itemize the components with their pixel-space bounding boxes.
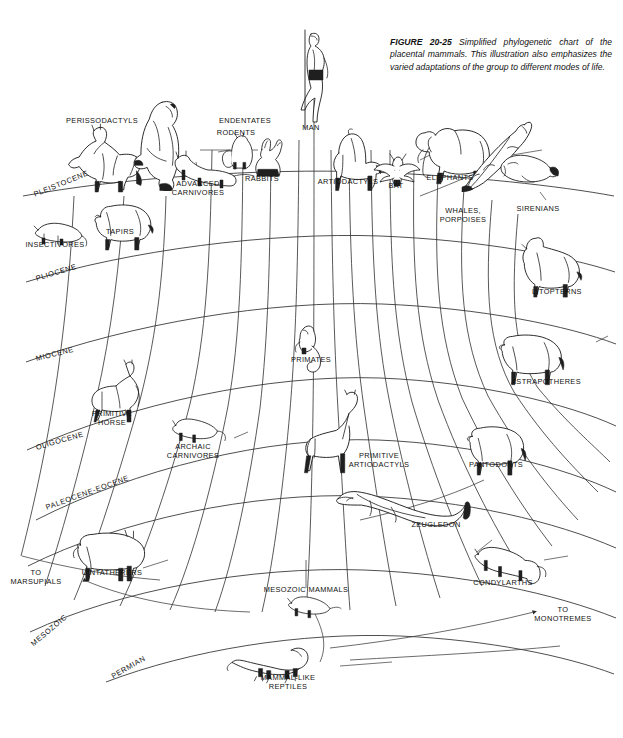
animal-archaic-carnivore bbox=[173, 419, 226, 443]
taxon-label: CONDYLARTHS bbox=[473, 579, 533, 588]
taxon-label: UINTATHERERS bbox=[82, 569, 143, 578]
taxon-label: ADVANCED CARNIVORES bbox=[172, 180, 224, 197]
taxon-label: PANTODONTS bbox=[469, 461, 523, 470]
chart-canvas: .gl { fill:none; stroke:#2f2f2f; stroke-… bbox=[0, 0, 623, 738]
taxon-label: MAMMAL-LIKE REPTILES bbox=[261, 674, 316, 691]
figure-caption-number: FIGURE 20-25 bbox=[390, 37, 452, 47]
taxon-label: INSECTIVORES bbox=[25, 241, 84, 250]
taxon-label: TO MONOTREMES bbox=[534, 606, 591, 623]
taxon-label: MAN bbox=[302, 124, 319, 133]
taxon-label: LITOPTERNS bbox=[532, 288, 582, 297]
taxon-label: ZEUGLEDON bbox=[411, 521, 460, 530]
animal-rabbit bbox=[256, 139, 282, 176]
taxon-label: ARCHAIC CARNIVORES bbox=[167, 443, 219, 460]
taxon-label: SIRENIANS bbox=[517, 205, 560, 214]
taxon-label: ASTRAPOTHERES bbox=[511, 378, 581, 387]
taxon-label: ELEPHANTS bbox=[426, 174, 473, 183]
animal-man bbox=[301, 30, 328, 128]
animal-mesozoic-mammal bbox=[288, 597, 341, 618]
taxon-label: ENDENTATES bbox=[219, 117, 271, 126]
taxon-label: TAPIRS bbox=[106, 228, 134, 237]
figure-caption: FIGURE 20-25 Simplified phylogenetic cha… bbox=[390, 36, 612, 73]
animal-sirenian bbox=[501, 155, 559, 182]
taxon-label: MESOZOIC MAMMALS bbox=[264, 586, 348, 595]
taxon-label: BAT bbox=[389, 182, 404, 191]
taxon-label: PRIMITIVE ARTIODACTYLS bbox=[349, 452, 410, 469]
animal-primate bbox=[295, 326, 320, 372]
taxon-label: PRIMATES bbox=[291, 356, 331, 365]
taxon-label: RODENTS bbox=[217, 129, 256, 138]
taxon-label: ARTIODACTYLS bbox=[318, 178, 379, 187]
animal-horse-perissodactyl bbox=[69, 124, 142, 192]
taxon-label: WHALES, PORPOISES bbox=[440, 207, 487, 224]
animal-rodent bbox=[222, 133, 252, 169]
taxon-label: PERISSODACTYLS bbox=[66, 117, 138, 126]
taxon-label: RABBITS bbox=[245, 175, 279, 184]
taxon-label: TO MARSUPIALS bbox=[10, 569, 61, 586]
taxon-label: PRIMITIVE HORSE bbox=[92, 410, 132, 427]
phylogenetic-chart-figure: .gl { fill:none; stroke:#2f2f2f; stroke-… bbox=[0, 0, 623, 738]
